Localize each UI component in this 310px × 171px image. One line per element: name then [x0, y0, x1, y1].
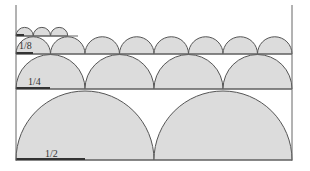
diagram-drawing	[0, 0, 310, 171]
semicircle-1-4	[154, 55, 223, 89]
semicircle-1-8	[120, 37, 155, 54]
semicircle-1-16	[33, 27, 50, 36]
semicircle-1-4	[85, 55, 154, 89]
row-label-eighth: 1/8	[19, 41, 32, 51]
semicircle-1-8	[223, 37, 258, 54]
semicircle-1-8	[85, 37, 120, 54]
semicircle-1-8	[51, 37, 86, 54]
row-label-quarter: 1/4	[28, 77, 41, 87]
semicircle-1-8	[189, 37, 224, 54]
semicircle-scale-diagram: 1/8 1/4 1/2	[0, 0, 310, 171]
semicircle-1-4	[16, 55, 85, 89]
semicircle-1-4	[223, 55, 292, 89]
row-label-half: 1/2	[45, 149, 58, 159]
semicircle-1-8	[154, 37, 189, 54]
semicircle-1-2	[154, 91, 292, 160]
semicircle-1-8	[258, 37, 293, 54]
semicircle-1-2	[16, 91, 154, 160]
semicircle-1-16	[51, 27, 68, 36]
